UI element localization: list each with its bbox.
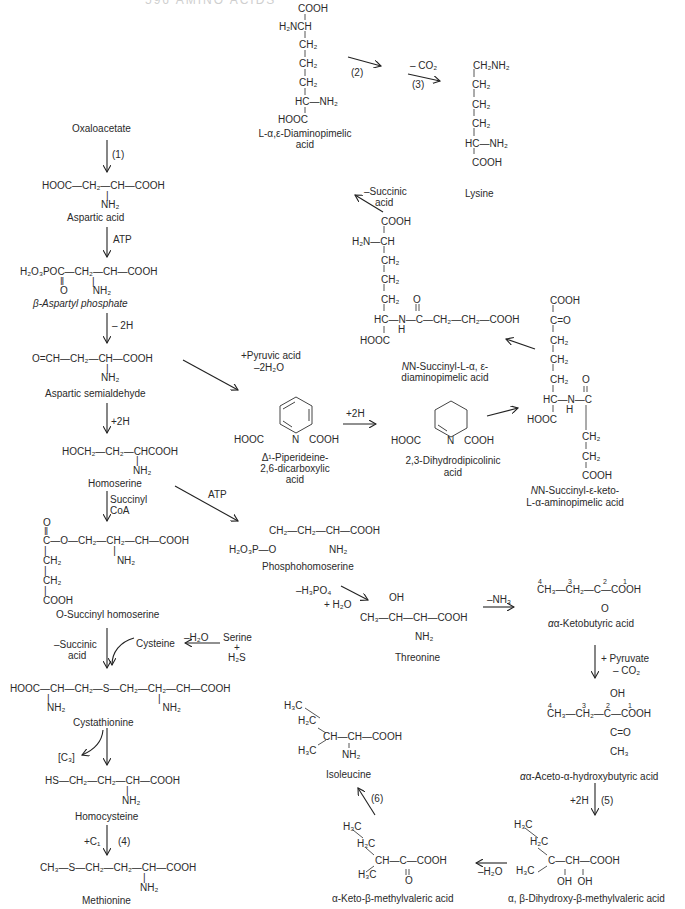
h2c: H₂C: [298, 715, 316, 726]
methionine-formula: CH₃—S—CH₂—CH₂—CH—COOH: [40, 862, 196, 873]
compound-phosphohomoserine: Phosphohomoserine: [262, 561, 354, 573]
minus-succinic-label-2: acid: [68, 650, 86, 661]
step-3-label: (3): [412, 79, 424, 90]
minus-2h2o-label: –2H₂O: [254, 362, 284, 373]
compound-cystathionine: Cystathionine: [73, 717, 134, 729]
hooc: HOOC: [391, 435, 421, 446]
minus-succinic-top-1: –Succinic: [364, 186, 407, 197]
ch2: CH₂: [550, 374, 568, 385]
cooh: COOH: [464, 435, 494, 446]
compound-methionine: Methionine: [82, 895, 131, 907]
homoserine-formula: HOCH₂—CH₂—CHCOOH: [62, 446, 178, 457]
name: α-Ketobutyric acid: [554, 618, 634, 629]
plus-c1-label: +C₁: [84, 836, 100, 847]
pyruvic-acid-label: +Pyruvic acid: [241, 350, 301, 361]
atp-label: ATP: [113, 234, 132, 245]
compound-lysine: Lysine: [465, 188, 494, 200]
compound-homoserine: Homoserine: [88, 478, 142, 490]
cysteine-label: Cysteine: [136, 638, 175, 649]
aspartic-semialdehyde-formula: O=CH—CH₂—CH—COOH: [32, 353, 153, 364]
minus-h2o-label: –H₂O: [184, 632, 208, 643]
minus-h3po4-label: –H₃PO₄: [296, 585, 331, 596]
compound-o-succinyl-homoserine: O-Succinyl homoserine: [56, 609, 159, 621]
amine-group: NH₂: [140, 882, 158, 893]
succinyl-coa-label-1: Succinyl: [110, 494, 147, 505]
name: α-Aceto-α-hydroxybutyric acid: [526, 771, 659, 782]
compound-n-succinyl-diaminopimelic-2: diaminopimelic acid: [390, 372, 500, 384]
minus-2h-label: – 2H: [112, 320, 133, 331]
minus-succinic-label-1: –Succinic: [54, 639, 97, 650]
hooc: HOOC: [278, 114, 308, 125]
plus-2h-label: +2H: [111, 416, 130, 427]
amine-group: NH₂: [133, 465, 151, 476]
phosphohomoserine-formula: CH₂—CH₂—CH—COOH: [269, 525, 380, 536]
hc-nh2: HC—NH₂: [295, 96, 338, 107]
keto-methylvaleric-formula: CH—C—COOH: [375, 855, 447, 866]
succinyl-coa-label-2: CoA: [110, 505, 129, 516]
ch2: CH₂: [472, 99, 490, 110]
carbonyl-o: O: [405, 875, 413, 886]
compound-diaminopimelic-2: acid: [250, 139, 360, 151]
ch2: CH₂: [299, 39, 317, 50]
hydroxyls: OH OH: [557, 876, 593, 887]
step-6-label: (6): [371, 793, 383, 804]
h2c: H₂C: [357, 838, 375, 849]
hydroxyl: OH: [610, 688, 625, 699]
ch2nh2: CH₂NH₂: [473, 60, 510, 71]
name-rest: N-Succinyl-ε-keto-: [538, 485, 619, 496]
phosphate-group: H₂O₃P—O: [229, 544, 276, 555]
ch3: CH₃: [610, 746, 629, 757]
name-rest: N-Succinyl-L-α, ε-: [409, 361, 488, 372]
ch2: CH₂: [381, 294, 399, 305]
aspartic-acid-formula: HOOC—CH₂—CH—COOH: [42, 180, 165, 191]
compound-oxaloacetate: Oxaloacetate: [72, 123, 131, 135]
ch2: CH₂: [472, 118, 490, 129]
step-2-label: (2): [351, 67, 363, 78]
h3c: H₃C: [358, 869, 377, 880]
isoleucine-formula: CH—CH—COOH: [323, 731, 402, 742]
amine-group: NH₂: [101, 199, 119, 210]
compound-keto-methylvaleric: α-Keto-β-methylvaleric acid: [332, 893, 454, 905]
cooh: COOH: [472, 157, 502, 168]
hydroxyl: OH: [389, 592, 404, 603]
minus-h2o-bottom-label: –H₂O: [478, 866, 502, 877]
cooh: COOH: [381, 216, 411, 227]
ch2: CH₂: [472, 79, 490, 90]
cooh: COOH: [43, 595, 73, 606]
compound-n-succinyl-keto-1: NN-Succinyl-ε-keto-: [520, 485, 630, 497]
aceto-hydroxybutyric-formula: CH₃—CH₂—C—COOH: [547, 708, 651, 719]
compound-ketobutyric: αα-Ketobutyric acid: [548, 618, 634, 630]
hooc: HOOC: [360, 335, 390, 346]
dihydroxy-methylvaleric-formula: C—CH—COOH: [548, 855, 620, 866]
compound-aceto-hydroxybutyric: αα-Aceto-α-hydroxybutyric acid: [520, 771, 658, 783]
ring-n: N: [292, 434, 299, 445]
cooh: COOH: [298, 3, 328, 14]
h3c: H₃C: [284, 700, 303, 711]
compound-n-succinyl-keto-2: L-α-aminopimelic acid: [510, 497, 640, 509]
compound-aspartic-acid: Aspartic acid: [67, 212, 124, 224]
plus-h2o-label: + H₂O: [324, 599, 352, 610]
amide-h: H: [566, 404, 573, 415]
atp-branch-label: ATP: [208, 489, 227, 500]
ch2: CH₂: [582, 451, 600, 462]
carbonyl-o: O: [413, 294, 421, 305]
h3c: H₃C: [343, 821, 362, 832]
carbonyl-o: O: [582, 374, 590, 385]
h3c: H₃C: [298, 745, 317, 756]
amine-group: NH₂: [342, 749, 360, 760]
homocysteine-formula: HS—CH₂—CH₂—CH—COOH: [45, 775, 180, 786]
ch2: CH₂: [299, 58, 317, 69]
carbonyl-o: O: [601, 603, 609, 614]
compound-dihydrodipicolinic-1: 2,3-Dihydrodipicolinic: [393, 455, 513, 467]
hc-nh2: HC—NH₂: [465, 138, 508, 149]
n-succinyl-chain: HC—N—C—CH₂—CH₂—COOH: [374, 314, 520, 325]
substituents: CH₂ NH₂: [43, 555, 135, 566]
plus-2h-ring-label: +2H: [346, 408, 365, 419]
pyruvate-label: + Pyruvate: [601, 653, 649, 664]
compound-aspartic-semialdehyde: Aspartic semialdehyde: [45, 388, 146, 400]
hooc: HOOC: [234, 434, 264, 445]
ch2: CH₂: [381, 255, 399, 266]
cooh: COOH: [582, 470, 612, 481]
h2s-label: H₂S: [228, 652, 246, 663]
amine-group: NH₂: [329, 544, 347, 555]
